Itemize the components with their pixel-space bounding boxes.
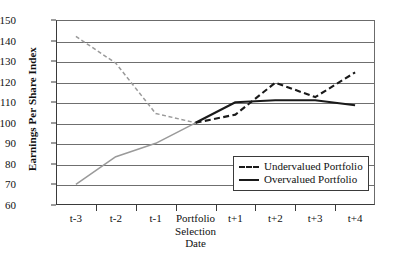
y-axis-tick-label: 80 (0, 158, 16, 169)
x-axis-tick-label: t+4 (315, 212, 394, 225)
legend-item-overvalued: Overvalued Portfolio (239, 173, 363, 186)
y-axis-tick-label: 60 (0, 200, 16, 211)
y-axis-tick-label: 140 (0, 35, 16, 46)
dashed-line-icon (239, 162, 259, 172)
gridline (57, 124, 374, 125)
y-axis-tick-label: 90 (0, 138, 16, 149)
y-axis-tick-label: 130 (0, 56, 16, 67)
x-axis-tick-mark (295, 205, 296, 211)
x-axis-tick-mark (335, 205, 336, 211)
y-axis-tick-label: 110 (0, 97, 16, 108)
solid-line-icon (239, 175, 259, 185)
legend-item-undervalued: Undervalued Portfolio (239, 160, 363, 173)
legend-label-overvalued: Overvalued Portfolio (264, 173, 357, 186)
x-axis-tick-mark (216, 205, 217, 211)
gridline (57, 83, 374, 84)
x-axis-tick-mark (255, 205, 256, 211)
y-axis-tick-label: 120 (0, 76, 16, 87)
gridline (57, 42, 374, 43)
gridline (57, 103, 374, 104)
legend-label-undervalued: Undervalued Portfolio (264, 160, 363, 173)
x-axis-tick-mark (176, 205, 177, 211)
y-axis-title: Earnings Per Share Index (26, 19, 38, 199)
gridline (57, 62, 374, 63)
gridline (57, 144, 374, 145)
y-axis-tick-label: 150 (0, 15, 16, 26)
x-axis-tick-mark (96, 205, 97, 211)
y-axis-tick-label: 100 (0, 117, 16, 128)
y-axis-tick-label: 70 (0, 179, 16, 190)
chart-legend: Undervalued Portfolio Overvalued Portfol… (233, 156, 369, 191)
chart-container: Earnings Per Share Index 150140130120110… (0, 0, 394, 259)
x-axis-tick-mark (136, 205, 137, 211)
